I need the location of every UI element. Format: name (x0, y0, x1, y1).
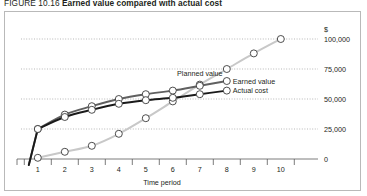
x-tick-label: 10 (277, 165, 285, 174)
data-point (142, 97, 149, 104)
x-tick-label: 5 (144, 165, 148, 174)
y-tick-label: 50,000 (324, 95, 346, 104)
figure-caption: FIGURE 10.16 Earned value compared with … (4, 0, 222, 9)
data-point (88, 142, 95, 149)
data-point (250, 50, 257, 57)
data-point (277, 36, 284, 43)
data-point (223, 66, 230, 73)
x-tick-label: 6 (171, 165, 175, 174)
y-axis-currency-symbol: $ (324, 25, 328, 34)
data-point (169, 87, 176, 94)
x-tick-label: 7 (198, 165, 202, 174)
y-tick-label: 100,000 (324, 35, 350, 44)
data-point (61, 148, 68, 155)
figure-container: FIGURE 10.16 Earned value compared with … (0, 0, 367, 196)
y-tick-label: 0 (324, 155, 328, 164)
data-point (34, 126, 41, 133)
data-point (115, 130, 122, 137)
x-tick-label: 2 (63, 165, 67, 174)
figure-number: FIGURE 10.16 (4, 0, 60, 8)
data-point (223, 87, 230, 94)
data-point (142, 115, 149, 122)
data-point (169, 94, 176, 101)
earned-value-chart: 12345678910$100,00075,00050,00025,0000Ti… (5, 12, 362, 192)
data-point (196, 91, 203, 98)
chart-plot-area: 12345678910$100,00075,00050,00025,0000Ti… (5, 12, 362, 192)
data-point (61, 114, 68, 121)
actual-cost-label: Actual cost (233, 86, 268, 95)
data-point (34, 154, 41, 161)
figure-title: Earned value compared with actual cost (62, 0, 222, 8)
x-axis-title: Time period (143, 178, 181, 187)
x-tick-label: 8 (225, 165, 229, 174)
planned-value-label: Planned value (177, 69, 223, 78)
y-tick-label: 25,000 (324, 125, 346, 134)
figure-frame: 12345678910$100,00075,00050,00025,0000Ti… (4, 11, 361, 191)
x-tick-label: 3 (90, 165, 94, 174)
x-tick-label: 1 (36, 165, 40, 174)
earned-value-label: Earned value (233, 77, 275, 86)
data-point (196, 82, 203, 89)
data-point (223, 78, 230, 85)
y-axis-labels: $100,00075,00050,00025,0000 (324, 25, 350, 164)
x-tick-label: 4 (117, 165, 121, 174)
data-point (115, 100, 122, 107)
y-tick-label: 75,000 (324, 65, 346, 74)
data-point (88, 106, 95, 113)
x-axis: 12345678910 (17, 159, 318, 174)
x-tick-label: 9 (252, 165, 256, 174)
